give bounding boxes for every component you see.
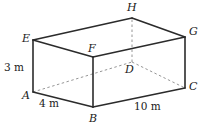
dimension-label-width: 4 m: [39, 98, 59, 109]
cuboid-drawing: [0, 0, 204, 128]
edge-AD: [33, 62, 132, 92]
edge-FG: [93, 37, 185, 57]
edge-HG: [132, 18, 185, 37]
vertex-label-g: G: [189, 26, 198, 37]
vertex-label-a: A: [22, 90, 30, 101]
vertex-label-d: D: [125, 64, 134, 75]
vertex-label-e: E: [22, 33, 30, 44]
dimension-label-height: 3 m: [4, 62, 24, 73]
solid-edge-group: [33, 18, 185, 107]
vertex-label-c: C: [189, 81, 197, 92]
vertex-label-f: F: [88, 43, 96, 54]
edge-EH: [33, 18, 132, 40]
cuboid-figure: E A F B G C H D 3 m 4 m 10 m: [0, 0, 204, 128]
vertex-label-b: B: [89, 113, 97, 124]
edge-EF: [33, 40, 93, 57]
edge-DC: [132, 62, 185, 88]
vertex-label-h: H: [127, 2, 137, 13]
dimension-label-length: 10 m: [134, 101, 161, 112]
